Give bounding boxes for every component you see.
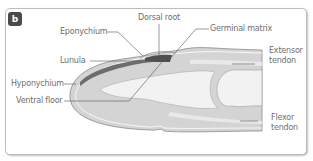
- label-ventral-floor: Ventral floor: [16, 96, 62, 106]
- label-flexor-line2: tendon: [271, 123, 298, 133]
- label-flexor-line1: Flexor: [271, 113, 298, 123]
- panel-label-badge: b: [8, 12, 22, 26]
- label-extensor-tendon: Extensor tendon: [269, 46, 303, 66]
- label-eponychium: Eponychium: [60, 27, 107, 37]
- label-extensor-line2: tendon: [269, 56, 303, 66]
- label-extensor-line1: Extensor: [269, 46, 303, 56]
- label-germinal-matrix: Germinal matrix: [210, 24, 272, 34]
- label-lunula: Lunula: [60, 56, 85, 66]
- label-dorsal-root: Dorsal root: [138, 13, 180, 23]
- middle-phalanx: [217, 70, 262, 107]
- label-hyponychium: Hyponychium: [11, 79, 64, 89]
- label-flexor-tendon: Flexor tendon: [271, 113, 298, 133]
